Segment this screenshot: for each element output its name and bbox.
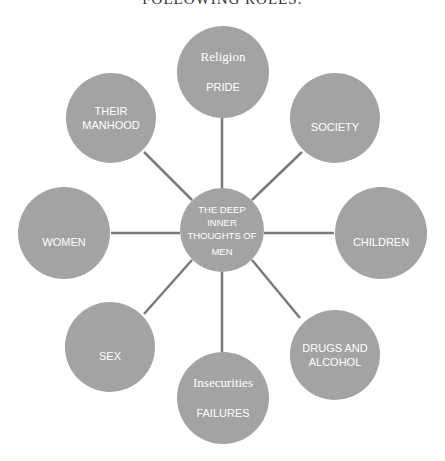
node-label: FAILURES (196, 406, 249, 420)
connector-top-right (252, 152, 302, 200)
node-religion-pride: Religion PRIDE (177, 26, 269, 118)
node-women: WOMEN (18, 187, 110, 279)
center-line-1: THE DEEP (198, 203, 246, 216)
center-line-4: MEN (211, 245, 232, 258)
node-children: CHILDREN (335, 187, 427, 279)
node-drugs-alcohol: DRUGS AND ALCOHOL (290, 310, 380, 400)
node-society: SOCIETY (290, 73, 380, 163)
node-label: PRIDE (206, 80, 240, 94)
node-label: CHILDREN (353, 235, 409, 249)
node-label: SOCIETY (311, 120, 359, 134)
center-node: THE DEEP INNER THOUGHTS OF MEN (180, 188, 264, 272)
connector-bottom-left (144, 260, 192, 314)
node-their-manhood: THEIR MANHOOD (66, 73, 156, 163)
node-label-line-1: THEIR (95, 104, 128, 118)
node-sex: SEX (65, 302, 155, 392)
node-label: SEX (99, 349, 121, 363)
node-label-line-1: DRUGS AND (302, 341, 367, 355)
center-line-3: THOUGHTS OF (187, 229, 256, 242)
connector-top-left (144, 152, 192, 200)
node-label-line-2: MANHOOD (82, 118, 139, 132)
node-insecurities-failures: Insecurities FAILURES (177, 352, 269, 444)
center-line-2: INNER (207, 216, 237, 229)
node-title: Insecurities (193, 376, 253, 390)
node-label-line-2: ALCOHOL (309, 355, 362, 369)
connector-bottom-right (252, 260, 300, 318)
node-label: WOMEN (42, 235, 85, 249)
node-title: Religion (201, 50, 246, 64)
